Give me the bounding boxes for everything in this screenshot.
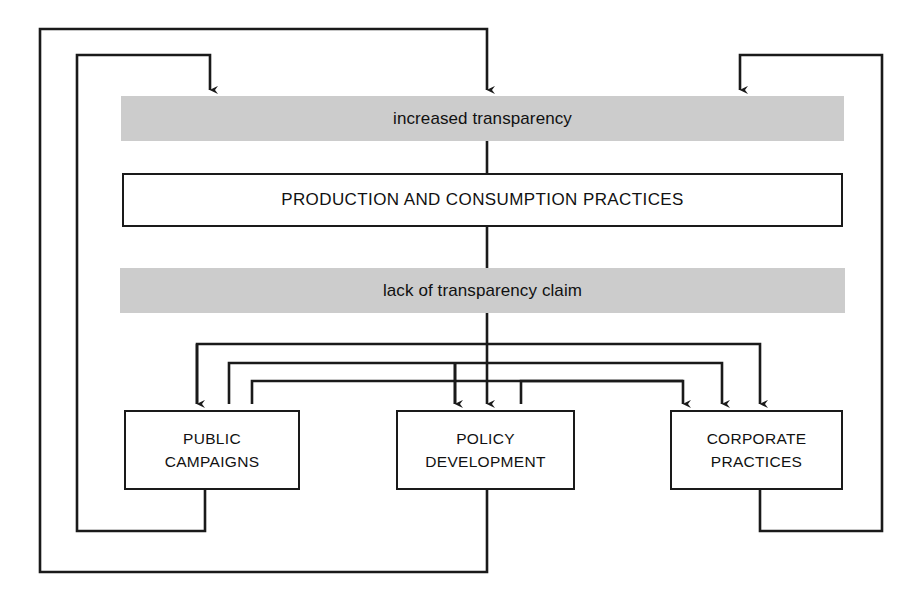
band-increased-transparency[interactable]: increased transparency [121, 96, 844, 141]
connector-fanout-rail-right-outer [487, 344, 760, 404]
band-production-and-consumption-practices[interactable]: PRODUCTION AND CONSUMPTION PRACTICES [122, 173, 843, 227]
connector-rail-mid [229, 363, 722, 404]
connector-fanout-rail-left-outer [197, 344, 487, 404]
box-corporate-practices[interactable]: CORPORATE PRACTICES [670, 410, 843, 490]
connector-rail-to-policy-right [521, 381, 683, 404]
box-corporate-practices-line2: PRACTICES [711, 450, 802, 473]
band-lack-of-transparency-claim-label: lack of transparency claim [383, 281, 582, 301]
band-increased-transparency-label: increased transparency [393, 109, 572, 129]
box-public-campaigns-line2: CAMPAIGNS [165, 450, 260, 473]
box-public-campaigns-line1: PUBLIC [183, 427, 241, 450]
box-policy-development[interactable]: POLICY DEVELOPMENT [396, 410, 575, 490]
connector-rail-inner-left [252, 381, 683, 404]
band-production-and-consumption-practices-label: PRODUCTION AND CONSUMPTION PRACTICES [281, 190, 684, 210]
box-policy-development-line2: DEVELOPMENT [425, 450, 545, 473]
diagram-canvas: increased transparency PRODUCTION AND CO… [0, 0, 921, 595]
band-lack-of-transparency-claim[interactable]: lack of transparency claim [120, 268, 845, 313]
box-public-campaigns[interactable]: PUBLIC CAMPAIGNS [124, 410, 300, 490]
box-policy-development-line1: POLICY [456, 427, 515, 450]
box-corporate-practices-line1: CORPORATE [707, 427, 807, 450]
